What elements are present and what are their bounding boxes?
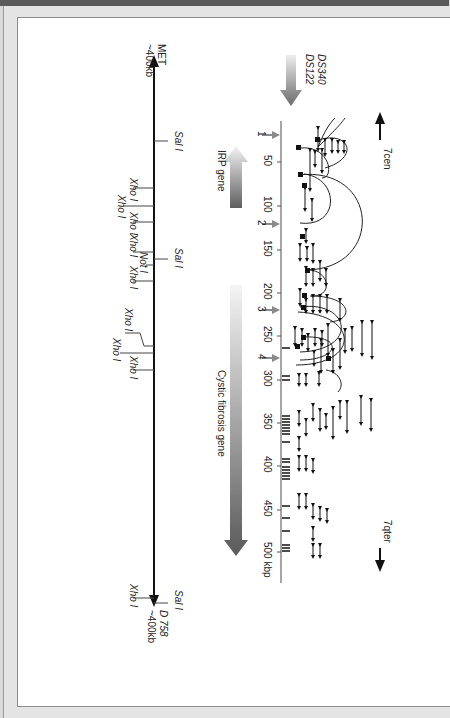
probe-arrow-icon [280,55,302,106]
orientation: 7cen 7qter [375,112,393,572]
d758-label: D 758 [158,610,169,637]
xho1-label: Xho I [128,233,139,258]
cf-gene: Cystic fibrosis gene [216,285,248,556]
tick-label: 300 [262,370,273,387]
probe-label: DS340 [316,54,327,85]
irp-gene-label: IRP gene [216,150,227,192]
met-distance: ~400kb [144,44,155,78]
d758-distance: ~400kb [146,610,157,644]
tick-label: 150 [262,240,273,257]
arrow-down-icon [149,595,159,607]
xho1-label: Xho I [128,265,139,290]
xho1-label: Xho I [128,211,139,236]
sal1-label: Sal I [173,248,184,268]
tick-label: 100 [262,196,273,213]
centromere-label: 7cen [382,148,393,170]
kbp-scale: 50 100 150 200 250 300 350 400 450 500 k… [262,121,281,583]
tick-label: 400 [262,456,273,473]
tick-label: 200 [262,283,273,300]
met-label: MET [156,44,167,65]
map-labels: MET ~400kb D 758 ~400kb Sal I Sal I Sal … [111,44,184,644]
fragment-bars [282,348,290,551]
xho1-label: Xho I [128,177,139,202]
walk-curves [296,118,362,392]
tick-label: 350 [262,413,273,430]
svg-text:2: 2 [256,220,267,226]
ds-probes: DS340 DS122 [280,54,327,106]
xho1-label: Xho I [128,355,139,380]
tick-label: 250 [262,326,273,343]
svg-text:3: 3 [256,306,267,312]
tick-label: 500 kbp [262,542,273,578]
tick-label: 450 [262,500,273,517]
tick-label: 50 [262,155,273,167]
sal1-label: Sal I [173,131,184,151]
arrow-down-icon [375,560,385,572]
arrow-up-icon [375,112,385,124]
telomere-label: 7qter [382,520,393,543]
sal1-label: Sal I [173,590,184,610]
irp-gene: IRP gene [216,146,248,208]
svg-text:1: 1 [256,131,267,137]
probe-label: DS122 [304,54,315,85]
svg-text:4: 4 [256,354,267,360]
xho1-label: Xho I [111,337,122,362]
xho1-label: Xho I [116,194,127,219]
xho1-label: Xho I [123,307,134,332]
cf-gene-label: Cystic fibrosis gene [216,370,227,457]
xho1-label: Xho I [128,583,139,608]
